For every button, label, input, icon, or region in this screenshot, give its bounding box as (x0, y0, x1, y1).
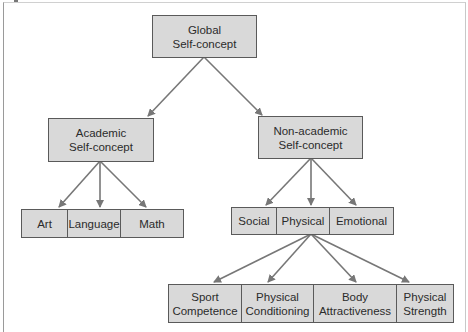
academic-subdomains-row: Art Language Math (21, 209, 184, 238)
node-physical-conditioning: Physical Conditioning (242, 285, 314, 322)
node-label: Academic Self-concept (69, 126, 133, 154)
node-emotional: Emotional (330, 208, 393, 234)
node-academic-self-concept: Academic Self-concept (48, 118, 154, 162)
arrow-global-to-academic (148, 57, 204, 116)
node-body-attractiveness: Body Attractiveness (314, 285, 397, 322)
arrow-physical-to-attractiveness (311, 234, 356, 282)
node-language: Language (68, 210, 121, 237)
arrow-physical-to-conditioning (268, 234, 311, 282)
arrow-physical-to-strength (311, 234, 409, 282)
arrow-global-to-nonacademic (204, 57, 262, 115)
node-sport-competence: Sport Competence (169, 285, 242, 322)
arrow-nonacademic-to-social (266, 158, 311, 205)
arrow-academic-to-art (59, 161, 100, 207)
node-art: Art (22, 210, 68, 237)
physical-subdomains-row: Sport Competence Physical Conditioning B… (168, 284, 454, 323)
node-label: Global Self-concept (173, 23, 237, 51)
node-social: Social (232, 208, 277, 234)
arrow-academic-to-math (100, 161, 146, 207)
node-label: Non-academic Self-concept (273, 124, 347, 152)
node-math: Math (121, 210, 183, 237)
arrow-physical-to-sport (214, 234, 311, 282)
node-physical-strength: Physical Strength (397, 285, 453, 322)
node-global-self-concept: Global Self-concept (152, 15, 257, 58)
arrow-nonacademic-to-emotional (311, 158, 356, 205)
node-physical: Physical (277, 208, 330, 234)
node-nonacademic-self-concept: Non-academic Self-concept (258, 116, 363, 159)
nonacademic-subdomains-row: Social Physical Emotional (231, 207, 394, 235)
